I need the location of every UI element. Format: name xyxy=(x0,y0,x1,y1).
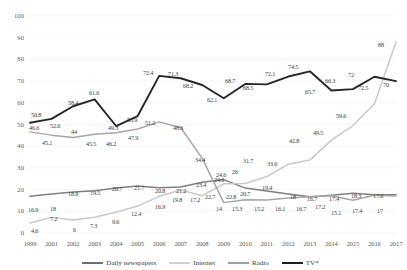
y-axis-tick-label: 70 xyxy=(2,77,24,84)
data-point-label: 71.3 xyxy=(168,70,178,77)
data-point-label: 47.9 xyxy=(128,134,138,141)
y-axis-tick-label: 60 xyxy=(2,99,24,106)
data-point-label: 65.7 xyxy=(305,88,315,95)
data-point-label: 72.4 xyxy=(143,69,153,76)
data-point-label: 45.5 xyxy=(86,140,96,147)
data-point-label: 34.4 xyxy=(195,156,205,163)
data-point-label: 70 xyxy=(383,81,389,88)
data-point-label: 62.1 xyxy=(207,96,217,103)
data-point-label: 20.8 xyxy=(155,187,165,194)
data-point-label: 51.2 xyxy=(145,119,155,126)
data-point-label: 14 xyxy=(216,205,222,212)
chart-legend: Daily newspapersInternetRadioTV* xyxy=(0,259,401,267)
x-axis-tick-label: 2001 xyxy=(41,240,63,247)
data-point-label: 15.2 xyxy=(254,205,264,212)
data-point-label: 24.6 xyxy=(214,176,224,183)
data-point-label: 17.2 xyxy=(315,203,325,210)
x-axis-tick-label: 2008 xyxy=(191,240,213,247)
data-point-label: 66.3 xyxy=(325,77,335,84)
x-axis-tick-label: 2015 xyxy=(342,240,364,247)
data-point-label: 17.4 xyxy=(352,207,362,214)
y-axis-tick-label: 40 xyxy=(2,142,24,149)
data-point-label: 18.3 xyxy=(351,192,361,199)
data-point-label: 19.8 xyxy=(172,196,182,203)
data-point-label: 52.6 xyxy=(50,122,60,129)
data-point-label: 53.9 xyxy=(127,116,137,123)
data-point-label: 49.5 xyxy=(313,129,323,136)
x-axis-tick-label: 2017 xyxy=(385,240,407,247)
data-point-label: 19.4 xyxy=(262,184,272,191)
data-point-label: 50.8 xyxy=(31,111,41,118)
legend-swatch-icon xyxy=(169,262,190,264)
y-axis-tick-label: 50 xyxy=(2,121,24,128)
legend-swatch-icon xyxy=(228,262,249,264)
data-point-label: 15.1 xyxy=(331,209,341,216)
data-point-label: 58.4 xyxy=(68,99,78,106)
data-point-label: 7.2 xyxy=(50,215,57,222)
legend-swatch-icon xyxy=(282,262,303,264)
legend-item[interactable]: Internet xyxy=(169,259,215,267)
data-point-label: 16.7 xyxy=(307,195,317,202)
y-axis-tick-label: 30 xyxy=(2,164,24,171)
data-point-label: 18 xyxy=(290,193,296,200)
data-point-label: 20.7 xyxy=(112,185,122,192)
data-point-label: 61.6 xyxy=(89,89,99,96)
data-point-label: 49.3 xyxy=(108,124,118,131)
y-axis-tick-label: 0 xyxy=(2,229,24,236)
data-point-label: 17 xyxy=(377,207,383,214)
x-axis-tick-label: 2003 xyxy=(84,240,106,247)
y-axis-tick-label: 80 xyxy=(2,55,24,62)
data-point-label: 59.6 xyxy=(336,112,346,119)
data-point-label: 44 xyxy=(71,128,77,135)
data-point-label: 12.4 xyxy=(131,210,141,217)
x-axis-tick-label: 2005 xyxy=(127,240,149,247)
x-axis-tick-label: 2013 xyxy=(299,240,321,247)
x-axis-tick-label: 2010 xyxy=(234,240,256,247)
data-point-label: 6 xyxy=(73,226,76,233)
data-point-label: 68.2 xyxy=(183,82,193,89)
data-point-label: 19.5 xyxy=(90,189,100,196)
data-point-label: 22.8 xyxy=(226,193,236,200)
data-point-label: 4.6 xyxy=(31,227,38,234)
legend-label: Internet xyxy=(193,259,215,267)
x-axis-tick-label: 2002 xyxy=(62,240,84,247)
data-point-label: 18 xyxy=(50,205,56,212)
y-axis-tick-label: 20 xyxy=(2,186,24,193)
x-axis-tick-label: 1999 xyxy=(19,240,41,247)
data-point-label: 68.7 xyxy=(225,77,235,84)
legend-item[interactable]: Daily newspapers xyxy=(82,259,156,267)
data-point-label: 23.4 xyxy=(196,181,206,188)
data-point-label: 31.7 xyxy=(243,157,253,164)
legend-label: Daily newspapers xyxy=(106,259,156,267)
data-point-label: 16.9 xyxy=(155,203,165,210)
data-point-label: 72 xyxy=(348,71,354,78)
legend-label: Radio xyxy=(252,259,269,267)
data-point-label: 33.6 xyxy=(267,160,277,167)
data-point-label: 48.6 xyxy=(173,124,183,131)
data-point-label: 42.8 xyxy=(289,137,299,144)
data-point-label: 72.5 xyxy=(358,84,368,91)
data-point-label: 20.7 xyxy=(240,190,250,197)
x-axis-tick-label: 2016 xyxy=(363,240,385,247)
data-point-label: 18.9 xyxy=(68,190,78,197)
legend-label: TV* xyxy=(306,259,319,267)
gridlines xyxy=(30,16,396,233)
y-axis-tick-label: 90 xyxy=(2,34,24,41)
legend-swatch-icon xyxy=(82,262,103,264)
data-point-label: 21.2 xyxy=(176,187,186,194)
legend-item[interactable]: TV* xyxy=(282,259,319,267)
x-axis-tick-label: 2011 xyxy=(256,240,278,247)
legend-item[interactable]: Radio xyxy=(228,259,269,267)
data-point-label: 46.6 xyxy=(29,124,39,131)
x-axis-tick-label: 2014 xyxy=(320,240,342,247)
data-point-label: 26 xyxy=(232,168,238,175)
x-axis-tick-label: 2012 xyxy=(277,240,299,247)
x-axis-tick-label: 2006 xyxy=(148,240,170,247)
data-point-label: 21.7 xyxy=(134,184,144,191)
data-point-label: 7.3 xyxy=(90,222,97,229)
data-point-label: 17.4 xyxy=(329,195,339,202)
y-axis-tick-label: 100 xyxy=(2,12,24,19)
data-point-label: 17.2 xyxy=(190,196,200,203)
